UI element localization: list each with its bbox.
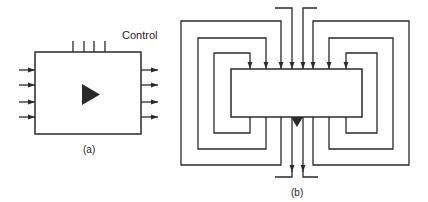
caption-b: (b) <box>291 187 303 199</box>
output-arrows <box>141 70 158 117</box>
external-input-line <box>275 8 292 69</box>
block-b <box>231 69 362 117</box>
external-output-line <box>303 171 318 177</box>
input-arrows <box>19 70 35 117</box>
diagram-a <box>19 41 158 134</box>
control-lines <box>73 41 105 52</box>
control-label: Control <box>122 29 157 41</box>
diagram-canvas <box>0 0 428 202</box>
diagram-b <box>181 8 409 177</box>
down-triangle-icon <box>291 117 303 127</box>
external-input-line <box>303 8 317 69</box>
external-output-line <box>275 171 292 177</box>
caption-a: (a) <box>83 144 95 156</box>
